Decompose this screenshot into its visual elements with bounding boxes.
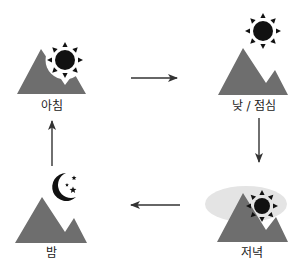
sun-disc [253, 21, 273, 41]
sun-ray [250, 38, 255, 43]
stage-night [15, 173, 87, 243]
sun-icon [246, 190, 278, 222]
star-icon [65, 183, 69, 187]
sun-ray [270, 18, 275, 23]
sun-disc [254, 198, 270, 214]
sun-ray [245, 28, 250, 33]
sun-icon [245, 13, 281, 49]
day-cycle-diagram: 아침 낮 / 점심 저녁 밤 [0, 0, 301, 273]
sun-ray [250, 18, 255, 23]
sun-disc [55, 50, 75, 70]
sun-ray [260, 13, 265, 18]
label-evening: 저녁 [212, 246, 292, 260]
sun-ray [260, 44, 265, 49]
sun-icon [46, 41, 85, 80]
stage-noon [218, 13, 288, 95]
mountain [15, 197, 87, 243]
star-shape [65, 183, 69, 187]
star-shape [72, 175, 77, 180]
sun-ray [276, 28, 281, 33]
sun-ray [270, 38, 275, 43]
label-noon: 낮 / 점심 [214, 99, 294, 113]
label-night: 밤 [11, 246, 91, 260]
stage-evening [205, 186, 288, 242]
mountain [218, 48, 288, 95]
star-icon [72, 175, 77, 180]
stage-morning [17, 41, 86, 95]
star-icon [70, 186, 77, 193]
label-morning: 아침 [12, 99, 92, 113]
star-shape [70, 186, 77, 193]
